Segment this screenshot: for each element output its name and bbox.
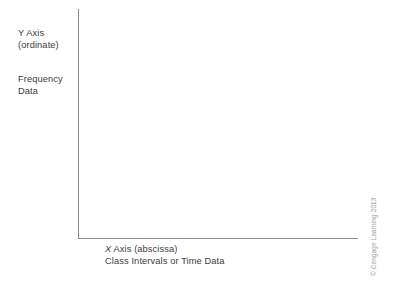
x-axis-label-block: X Axis (abscissa) Class Intervals or Tim… [105,243,225,268]
y-axis-name-label: Y Axis (ordinate) [18,28,59,51]
y-axis-line [78,9,79,239]
graph-axes-figure: Y Axis (ordinate) Frequency Data X Axis … [0,0,397,285]
x-axis-name-rest: Axis (abscissa) [111,244,177,254]
x-axis-line [78,238,358,239]
copyright-credit: © Cengage Learning 2013 [368,264,397,276]
x-axis-name-label: X Axis (abscissa) [105,243,225,255]
x-axis-data-label: Class Intervals or Time Data [105,255,225,267]
y-axis-data-label: Frequency Data [18,74,63,97]
